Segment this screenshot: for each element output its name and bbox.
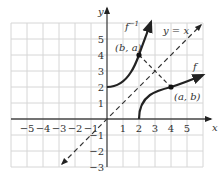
svg-text:−2: −2 xyxy=(68,123,83,134)
svg-text:1: 1 xyxy=(98,98,104,109)
svg-text:−3: −3 xyxy=(89,162,104,173)
svg-text:3: 3 xyxy=(152,123,158,134)
identity-label: y = x xyxy=(162,25,189,36)
svg-text:3: 3 xyxy=(98,66,104,77)
svg-text:−3: −3 xyxy=(52,123,67,134)
svg-text:−4: −4 xyxy=(36,123,51,134)
point-ab-label: (a, b) xyxy=(174,91,201,102)
x-tick-labels: −5 −4 −3 −2 −1 1 2 3 4 5 xyxy=(20,123,191,134)
svg-text:−2: −2 xyxy=(89,146,104,157)
f-label: f xyxy=(192,61,199,72)
svg-text:4: 4 xyxy=(168,123,174,134)
f-inverse-label: f−1 xyxy=(124,20,139,32)
svg-text:−1: −1 xyxy=(89,130,104,141)
point-ba xyxy=(136,52,141,57)
point-ba-label: (b, a) xyxy=(115,42,142,53)
svg-text:5: 5 xyxy=(98,34,104,45)
svg-text:5: 5 xyxy=(184,123,190,134)
svg-text:2: 2 xyxy=(136,123,142,134)
svg-text:−5: −5 xyxy=(20,123,35,134)
svg-text:2: 2 xyxy=(98,82,104,93)
svg-text:1: 1 xyxy=(120,123,126,134)
inverse-function-graph: x y −5 −4 −3 −2 −1 1 2 3 4 5 5 4 3 2 1 −… xyxy=(0,0,219,194)
x-axis-label: x xyxy=(212,122,218,133)
svg-text:4: 4 xyxy=(98,50,104,61)
point-ab xyxy=(168,84,173,89)
y-axis-label: y xyxy=(97,6,104,17)
